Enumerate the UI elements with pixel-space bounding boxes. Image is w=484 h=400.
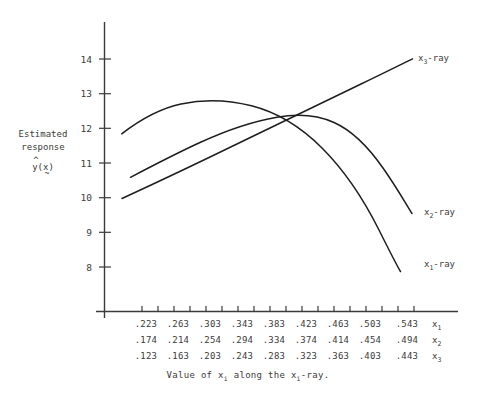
x-tick-label: .203 xyxy=(199,351,221,361)
ray-label-x1: x1-ray xyxy=(424,259,456,272)
x-tick-label: .254 xyxy=(199,335,221,345)
x-tick-label: .403 xyxy=(359,351,381,361)
x-tick-label: .454 xyxy=(359,335,381,345)
figure-caption: Value of xi along the xi-ray. xyxy=(167,370,330,383)
y-axis-title-line1: Estimated xyxy=(19,129,68,139)
x-row-variable-1: x1 xyxy=(432,319,441,332)
axes-group xyxy=(96,22,458,318)
x-tick-label: .174 xyxy=(135,335,157,345)
x-row-variable-3: x3 xyxy=(432,351,441,364)
x-tick-label: .323 xyxy=(295,351,317,361)
y-axis-title-yhat: y(x) xyxy=(32,162,54,172)
x-tick-label: .503 xyxy=(359,319,381,329)
x-tick-label: .343 xyxy=(231,319,253,329)
x-tick-label-row-3: .123 .163 .203 .243 .283 .323 .363 .403 … xyxy=(135,351,442,364)
curve-x1-ray xyxy=(122,101,401,272)
x-axis-ticks xyxy=(142,306,414,312)
x-tick-label-row-2: .174 .214 .254 .294 .334 .374 .414 .454 … xyxy=(135,335,442,348)
y-tick-label-8: 8 xyxy=(86,262,92,273)
curves-group xyxy=(122,59,413,272)
x-tick-label: .214 xyxy=(167,335,189,345)
x-tick-label: .294 xyxy=(231,335,253,345)
y-axis-title-line2: response xyxy=(21,142,64,152)
y-tick-label-9: 9 xyxy=(86,227,92,238)
chart-svg: 14 13 12 11 10 9 8 .223 .263 .303 .343 .… xyxy=(0,0,484,400)
y-axis-title-tilde: ~ xyxy=(45,169,50,178)
y-tick-label-13: 13 xyxy=(81,88,92,99)
x-tick-label: .263 xyxy=(167,319,189,329)
x-tick-label: .223 xyxy=(135,319,157,329)
curve-x3-ray xyxy=(122,59,413,199)
x-tick-label: .283 xyxy=(263,351,285,361)
x-tick-label: .423 xyxy=(295,319,317,329)
x-tick-label: .494 xyxy=(396,335,418,345)
ray-label-x1-text: x1-ray xyxy=(424,259,456,272)
x-tick-label: .363 xyxy=(327,351,349,361)
y-axis-title: Estimated response ^ y(x) ~ xyxy=(19,129,68,178)
x-tick-label: .414 xyxy=(327,335,349,345)
x-tick-label: .334 xyxy=(263,335,285,345)
ray-label-x3-text: x3-ray xyxy=(418,53,450,66)
y-axis-tick-labels: 14 13 12 11 10 9 8 xyxy=(81,54,93,273)
x-tick-label: .463 xyxy=(327,319,349,329)
x-tick-label: .383 xyxy=(263,319,285,329)
x-tick-label-row-1: .223 .263 .303 .343 .383 .423 .463 .503 … xyxy=(135,319,442,332)
figure-caption-text: Value of xi along the xi-ray. xyxy=(167,370,330,383)
figure-container: 14 13 12 11 10 9 8 .223 .263 .303 .343 .… xyxy=(0,0,484,400)
y-tick-label-11: 11 xyxy=(81,158,93,169)
ray-label-x2-text: x2-ray xyxy=(424,207,456,220)
y-tick-label-10: 10 xyxy=(81,192,93,203)
x-tick-label: .123 xyxy=(135,351,157,361)
x-row-variable-2: x2 xyxy=(432,335,441,348)
y-tick-label-14: 14 xyxy=(81,54,93,65)
ray-label-x3: x3-ray xyxy=(418,53,450,66)
y-tick-label-12: 12 xyxy=(81,123,92,134)
x-tick-label: .543 xyxy=(396,319,418,329)
x-tick-label: .443 xyxy=(396,351,418,361)
x-tick-label: .163 xyxy=(167,351,189,361)
x-tick-label: .243 xyxy=(231,351,253,361)
curve-x2-ray xyxy=(131,115,413,213)
x-tick-label: .374 xyxy=(295,335,317,345)
x-tick-label: .303 xyxy=(199,319,221,329)
ray-label-x2: x2-ray xyxy=(424,207,456,220)
